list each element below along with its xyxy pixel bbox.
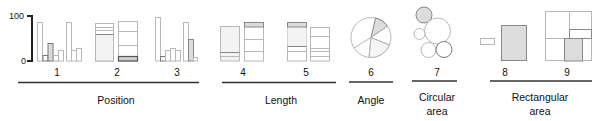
category-label-rectangular-area: area	[529, 105, 550, 117]
item-1-aligned-bars	[38, 23, 82, 62]
perceptual-encodings-diagram: 100 0	[0, 0, 607, 121]
item-5-length	[288, 23, 330, 62]
item-number-9: 9	[564, 67, 570, 78]
item-2-stacked-bars	[96, 22, 138, 62]
item-8-rectangles	[481, 26, 527, 61]
category-label-length: Length	[265, 94, 297, 106]
category-label-angle: Angle	[358, 94, 385, 106]
item-numbers: 1 2 3 4 5 6 7 8 9	[54, 67, 570, 78]
category-label-circular-area: area	[426, 105, 447, 117]
item-number-7: 7	[434, 67, 440, 78]
category-label-circular: Circular	[419, 91, 456, 103]
item-3-bars	[156, 18, 198, 62]
item-9-treemap	[546, 12, 592, 62]
item-number-1: 1	[54, 67, 60, 78]
category-label-position: Position	[97, 94, 135, 106]
y-axis-max-label: 100	[9, 11, 24, 21]
item-number-6: 6	[368, 67, 374, 78]
y-axis-bracket	[27, 16, 32, 61]
category-label-rectangular: Rectangular	[512, 91, 569, 103]
item-number-3: 3	[174, 67, 180, 78]
item-number-8: 8	[502, 67, 508, 78]
y-axis-min-label: 0	[21, 56, 26, 66]
item-6-pie	[351, 18, 391, 58]
item-number-4: 4	[240, 67, 246, 78]
y-axis: 100 0	[9, 11, 32, 66]
category-labels: Position Length Angle Circular area Rect…	[97, 91, 568, 117]
item-number-2: 2	[114, 67, 120, 78]
item-4-length	[221, 23, 264, 62]
category-rules	[18, 81, 592, 83]
item-7-circles	[414, 7, 452, 58]
item-number-5: 5	[303, 67, 309, 78]
